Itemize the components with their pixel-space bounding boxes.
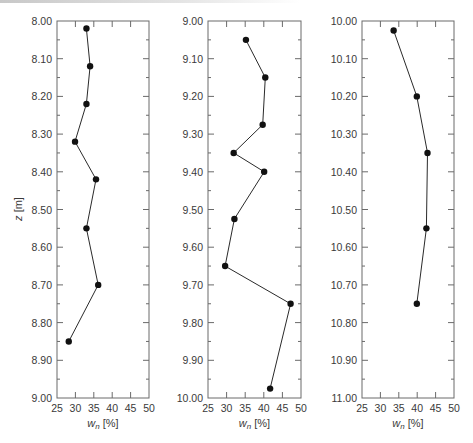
y-tick-label: 9.80 (183, 317, 204, 329)
y-tick-label: 10.80 (331, 317, 357, 329)
y-tick-label: 9.50 (183, 204, 204, 216)
y-tick-label: 8.30 (32, 128, 53, 140)
x-axis-title: wn [%] (87, 417, 118, 431)
x-tick-label: 45 (430, 402, 442, 414)
data-point-marker (267, 385, 273, 391)
y-tick-label: 10.00 (331, 15, 357, 27)
moisture-profile-line (225, 40, 291, 389)
y-tick-label: 10.20 (331, 90, 357, 102)
panel-depth-9-10m: 9.009.109.209.309.409.509.609.709.809.90… (177, 15, 307, 431)
x-axis-title: wn [%] (239, 417, 270, 431)
y-tick-label: 9.40 (183, 166, 204, 178)
plot-frame (362, 21, 454, 398)
panel-depth-8-9m: 8.008.108.208.308.408.508.608.708.808.90… (32, 15, 155, 431)
y-tick-label: 10.40 (331, 166, 357, 178)
data-point-marker (414, 301, 420, 307)
svg-text:z [m]: z [m] (12, 197, 24, 222)
x-tick-label: 40 (106, 402, 118, 414)
x-tick-label: 25 (202, 402, 214, 414)
data-point-marker (423, 225, 429, 231)
data-point-marker (83, 101, 89, 107)
x-tick-label: 45 (277, 402, 289, 414)
y-tick-label: 10.70 (331, 279, 357, 291)
x-tick-label: 30 (70, 402, 82, 414)
x-tick-label: 40 (258, 402, 270, 414)
x-tick-label: 25 (356, 402, 368, 414)
y-tick-label: 9.60 (183, 241, 204, 253)
y-axis-title: z [m] (12, 197, 24, 222)
plot-frame (208, 21, 301, 398)
y-tick-label: 9.00 (32, 392, 53, 404)
x-tick-label: 50 (448, 402, 460, 414)
y-tick-label: 9.70 (183, 279, 204, 291)
y-tick-label: 8.60 (32, 241, 53, 253)
x-tick-label: 30 (221, 402, 233, 414)
y-tick-label: 11.00 (332, 392, 358, 404)
x-tick-label: 35 (393, 402, 405, 414)
x-tick-label: 50 (295, 402, 307, 414)
y-tick-label: 8.90 (32, 354, 53, 366)
y-tick-label: 10.90 (331, 354, 357, 366)
moisture-profile-line (394, 30, 428, 303)
y-tick-label: 8.50 (32, 204, 53, 216)
x-tick-label: 40 (411, 402, 423, 414)
data-point-marker (424, 150, 430, 156)
data-point-marker (231, 216, 237, 222)
data-point-marker (243, 37, 249, 43)
data-point-marker (72, 138, 78, 144)
x-tick-label: 35 (88, 402, 100, 414)
data-point-marker (262, 74, 268, 80)
y-tick-label: 8.80 (32, 317, 53, 329)
moisture-content-depth-profiles: 8.008.108.208.308.408.508.608.708.808.90… (0, 0, 473, 443)
y-tick-label: 9.00 (183, 15, 204, 27)
data-point-marker (83, 25, 89, 31)
y-tick-label: 9.20 (183, 90, 204, 102)
panel-depth-10-11m: 10.0010.1010.2010.3010.4010.5010.6010.70… (331, 15, 460, 431)
y-tick-label: 10.50 (331, 204, 357, 216)
y-tick-label: 10.30 (331, 128, 357, 140)
x-tick-label: 50 (143, 402, 155, 414)
x-tick-label: 30 (375, 402, 387, 414)
y-tick-label: 10.00 (177, 392, 203, 404)
x-axis-title: wn [%] (392, 417, 423, 431)
y-tick-label: 8.20 (32, 90, 53, 102)
data-point-marker (95, 282, 101, 288)
data-point-marker (287, 301, 293, 307)
x-tick-label: 25 (51, 402, 63, 414)
y-tick-label: 10.60 (331, 241, 357, 253)
y-tick-label: 8.00 (32, 15, 53, 27)
data-point-marker (222, 263, 228, 269)
data-point-marker (87, 63, 93, 69)
data-point-marker (414, 93, 420, 99)
data-point-marker (83, 225, 89, 231)
y-tick-label: 9.90 (183, 354, 204, 366)
data-point-marker (261, 169, 267, 175)
y-tick-label: 8.40 (32, 166, 53, 178)
data-point-marker (390, 27, 396, 33)
data-point-marker (66, 338, 72, 344)
y-tick-label: 8.10 (32, 53, 53, 65)
y-tick-label: 10.10 (331, 53, 357, 65)
y-tick-label: 9.30 (183, 128, 204, 140)
x-tick-label: 35 (239, 402, 251, 414)
data-point-marker (230, 150, 236, 156)
data-point-marker (259, 121, 265, 127)
y-tick-label: 9.10 (183, 53, 204, 65)
data-point-marker (93, 176, 99, 182)
y-tick-label: 8.70 (32, 279, 53, 291)
x-tick-label: 45 (125, 402, 137, 414)
moisture-profile-line (69, 29, 98, 342)
